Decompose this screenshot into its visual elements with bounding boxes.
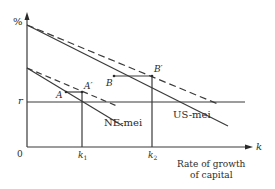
point-a-label: A (56, 91, 63, 100)
x-axis-title-line1: Rate of growth (177, 160, 245, 169)
k1-label: k1 (78, 151, 87, 161)
ne-mei-label: NE-mei (104, 118, 142, 128)
y-axis-label: % (13, 17, 23, 27)
point-b-marker (113, 75, 116, 78)
x-axis-label: k (256, 142, 262, 152)
us-mei-label: US-mei (173, 110, 211, 120)
point-b-label: B (106, 79, 113, 88)
point-a-prime-label: A′ (84, 82, 93, 91)
point-b-prime-marker (151, 75, 154, 78)
origin-label: 0 (17, 150, 23, 159)
point-b-prime-label: B′ (154, 65, 163, 74)
k2-label: k2 (148, 151, 157, 161)
y-axis-arrow-icon (25, 12, 30, 20)
r-label: r (18, 96, 23, 106)
ne-mei-shifted-curve (27, 68, 117, 106)
x-axis-title-line2: of capital (190, 171, 233, 180)
mei-diagram: % r 0 A A′ B B′ NE-mei US-mei k1 k2 k Ra… (0, 0, 275, 189)
point-a-marker (65, 91, 68, 94)
point-a-prime-marker (81, 91, 84, 94)
x-axis-arrow-icon (245, 145, 253, 150)
